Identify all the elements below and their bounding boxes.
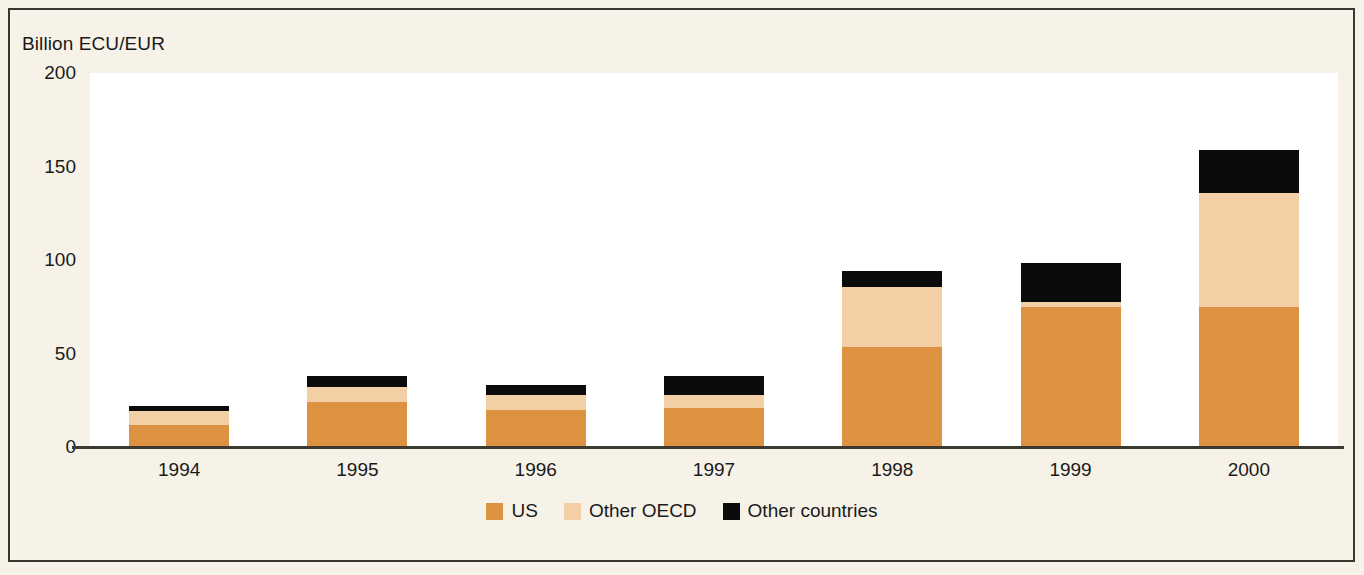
y-axis-tick-label: 50: [14, 343, 76, 365]
legend-item[interactable]: Other OECD: [564, 500, 697, 522]
legend-item[interactable]: Other countries: [723, 500, 878, 522]
bar-group[interactable]: [1199, 73, 1299, 447]
chart-figure: Billion ECU/EUR 050100150200 19941995199…: [0, 0, 1364, 575]
legend-swatch-icon: [723, 503, 740, 520]
x-axis-tick-label: 2000: [1228, 459, 1270, 481]
bar-segment[interactable]: [664, 408, 764, 447]
plot-area: [90, 73, 1338, 447]
y-axis-tick-label: 0: [14, 436, 76, 458]
bar-segment[interactable]: [842, 271, 942, 287]
bar-group[interactable]: [1021, 73, 1121, 447]
chart-legend: USOther OECDOther countries: [0, 500, 1364, 522]
bar-segment[interactable]: [486, 410, 586, 447]
x-axis-tick-label: 1999: [1049, 459, 1091, 481]
legend-label: Other OECD: [589, 500, 697, 522]
x-axis-tick-label: 1995: [336, 459, 378, 481]
bar-segment[interactable]: [129, 411, 229, 424]
bar-segment[interactable]: [307, 387, 407, 402]
bar-segment[interactable]: [129, 425, 229, 447]
bar-group[interactable]: [307, 73, 407, 447]
legend-swatch-icon: [486, 503, 503, 520]
bar-segment[interactable]: [1199, 307, 1299, 447]
x-axis-tick-label: 1994: [158, 459, 200, 481]
bar-segment[interactable]: [1199, 150, 1299, 193]
bar-segment[interactable]: [1021, 263, 1121, 302]
bar-segment[interactable]: [842, 287, 942, 347]
bar-group[interactable]: [486, 73, 586, 447]
bar-group[interactable]: [129, 73, 229, 447]
bar-segment[interactable]: [307, 402, 407, 447]
bar-group[interactable]: [842, 73, 942, 447]
bar-segment[interactable]: [1199, 193, 1299, 307]
x-axis-line: [72, 446, 1344, 449]
bar-group[interactable]: [664, 73, 764, 447]
legend-swatch-icon: [564, 503, 581, 520]
bar-segment[interactable]: [1021, 302, 1121, 307]
legend-label: Other countries: [748, 500, 878, 522]
x-axis-tick-label: 1997: [693, 459, 735, 481]
y-axis-tick-label: 100: [14, 249, 76, 271]
bar-segment[interactable]: [307, 376, 407, 387]
bar-segment[interactable]: [664, 395, 764, 408]
bar-segment[interactable]: [486, 395, 586, 410]
bar-segment[interactable]: [486, 385, 586, 394]
y-axis-title: Billion ECU/EUR: [22, 33, 165, 55]
y-axis-tick-label: 200: [14, 62, 76, 84]
bar-segment[interactable]: [1021, 307, 1121, 447]
legend-item[interactable]: US: [486, 500, 537, 522]
y-axis-tick-label: 150: [14, 156, 76, 178]
x-axis-tick-label: 1996: [515, 459, 557, 481]
legend-label: US: [511, 500, 537, 522]
x-axis-tick-label: 1998: [871, 459, 913, 481]
bar-segment[interactable]: [842, 347, 942, 447]
bar-segment[interactable]: [129, 406, 229, 412]
bar-segment[interactable]: [664, 376, 764, 395]
